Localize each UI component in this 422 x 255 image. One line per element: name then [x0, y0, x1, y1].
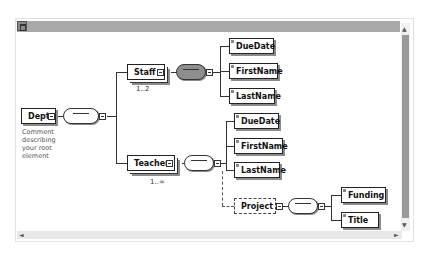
collapse-toggle-icon[interactable] [206, 69, 213, 76]
connector [116, 163, 127, 164]
element-staff-firstname[interactable]: FirstName [229, 63, 278, 79]
sequence-icon [73, 113, 89, 114]
connector [220, 71, 229, 72]
diagram-toolbar [17, 21, 400, 32]
sequence-compositor[interactable] [184, 155, 214, 171]
element-label: Staff [134, 68, 155, 77]
collapse-toggle-icon[interactable] [318, 203, 325, 210]
element-teacher-firstname[interactable]: FirstName [234, 138, 283, 154]
connector [116, 72, 127, 73]
cardinality-label: 1..∞ [150, 178, 165, 186]
element-project[interactable]: Project [234, 198, 276, 214]
optional-connector [222, 206, 234, 207]
collapse-toggle-icon[interactable] [276, 203, 283, 210]
scroll-right-icon[interactable]: ► [394, 232, 399, 238]
cardinality-label: 1..2 [136, 85, 149, 93]
connector [220, 46, 229, 47]
collapse-toggle-icon[interactable] [48, 113, 55, 120]
vertical-scroll-thumb[interactable] [402, 35, 409, 218]
root-comment: Comment describing your root element [22, 128, 72, 160]
element-staff-duedate[interactable]: DueDate [229, 38, 274, 54]
expand-icon[interactable] [17, 21, 27, 31]
connector [331, 195, 332, 220]
element-teacher-duedate[interactable]: DueDate [234, 113, 279, 129]
element-label: DueDate [241, 117, 280, 126]
connector [226, 121, 234, 122]
element-label: FirstName [241, 142, 288, 151]
collapse-toggle-icon[interactable] [166, 160, 173, 167]
element-staff-lastname[interactable]: LastName [229, 88, 275, 104]
sequence-compositor[interactable] [288, 198, 318, 214]
connector [331, 220, 341, 221]
connector [107, 116, 116, 117]
scroll-up-icon[interactable]: ▲ [402, 26, 407, 32]
sequence-icon [295, 203, 311, 204]
schema-view-frame [15, 18, 414, 242]
connector [331, 195, 341, 196]
connector [226, 170, 234, 171]
sequence-icon [191, 160, 207, 161]
collapse-toggle-icon[interactable] [99, 113, 106, 120]
element-label: LastName [236, 92, 281, 101]
sequence-compositor[interactable] [63, 108, 99, 124]
collapse-toggle-icon[interactable] [157, 69, 164, 76]
connector [56, 116, 63, 117]
scroll-down-icon[interactable]: ▼ [402, 222, 407, 228]
element-project-title[interactable]: Title [341, 212, 379, 228]
element-label: Title [348, 216, 368, 225]
element-label: DueDate [236, 42, 275, 51]
element-label: FirstName [236, 67, 283, 76]
element-project-funding[interactable]: Funding [341, 187, 386, 203]
element-label: Funding [348, 191, 384, 200]
connector [226, 146, 234, 147]
connector [220, 96, 229, 97]
element-label: Project [241, 202, 273, 211]
optional-connector [222, 171, 223, 206]
sequence-icon [183, 69, 199, 70]
element-teacher-lastname[interactable]: LastName [234, 162, 280, 178]
sequence-compositor[interactable] [176, 64, 206, 80]
connector [213, 72, 220, 73]
element-label: LastName [241, 166, 286, 175]
connector [116, 72, 117, 164]
collapse-toggle-icon[interactable] [214, 160, 221, 167]
element-label: Dept [28, 112, 50, 121]
scroll-left-icon[interactable]: ◄ [19, 232, 24, 238]
element-label: Teacher [134, 159, 169, 168]
horizontal-scrollbar[interactable] [17, 231, 402, 239]
